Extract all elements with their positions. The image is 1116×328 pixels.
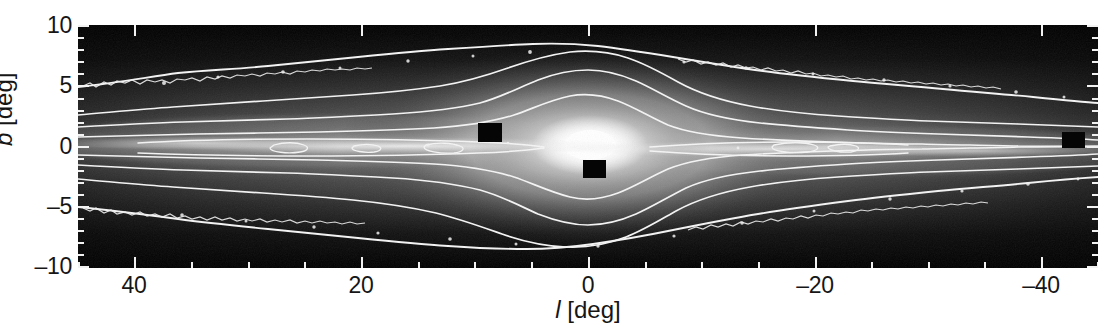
y-axis-unit: [deg] [0,73,17,126]
ytick-major-m10 [78,266,89,268]
ytick-major-5 [78,85,89,87]
xtick-top-major [588,25,590,36]
mask-square-right [1062,132,1085,148]
ytick-right-minor [1092,182,1098,184]
xtick-minor [645,262,647,268]
xtick-minor [531,262,533,268]
xtick-label-20: 20 [349,272,374,299]
xtick-top-major [361,25,363,36]
ytick-right-minor [1092,37,1098,39]
xtick-label-m40: –40 [1022,272,1059,299]
ytick-right-minor [1092,254,1098,256]
ytick-minor [78,98,84,100]
ytick-minor [78,182,84,184]
ytick-minor [78,61,84,63]
xtick-major-m40 [1041,257,1043,268]
ytick-right-minor [1092,194,1098,196]
ytick-minor [78,170,84,172]
xtick-minor [191,262,193,268]
xtick-major-m20 [815,257,817,268]
ytick-right-minor [1092,230,1098,232]
ytick-major-10 [78,25,89,27]
ytick-right-minor [1092,158,1098,160]
galactic-surface-brightness-figure: 10 5 0 –5 –10 40 20 0 –20 –40 b [deg] l … [0,0,1116,328]
xtick-minor [418,262,420,268]
xtick-top-major [1041,25,1043,36]
xtick-minor [928,262,930,268]
ytick-right-minor [1092,98,1098,100]
ytick-right-minor [1092,73,1098,75]
ytick-label-m5: –5 [26,193,72,220]
ytick-right-major [1087,206,1098,208]
ytick-right-minor [1092,61,1098,63]
ytick-right-minor [1092,134,1098,136]
ytick-label-10: 10 [26,12,72,39]
xtick-label-m20: –20 [796,272,833,299]
xtick-top-major [134,25,136,36]
ytick-right-minor [1092,170,1098,172]
xtick-minor [871,262,873,268]
xtick-major-40 [134,257,136,268]
plot-area [78,25,1098,268]
ytick-right-minor [1092,110,1098,112]
xtick-top-major [815,25,817,36]
xtick-label-40: 40 [122,272,147,299]
ytick-label-0: 0 [26,133,72,160]
ytick-right-major [1087,146,1098,148]
ytick-minor [78,122,84,124]
ytick-minor [78,158,84,160]
ytick-minor [78,194,84,196]
ytick-right-major [1087,266,1098,268]
ytick-minor [78,242,84,244]
xtick-major-20 [361,257,363,268]
y-axis-title: b [deg] [0,73,18,146]
xtick-minor [701,262,703,268]
ytick-minor [78,49,84,51]
x-axis-title: l [deg] [555,296,620,324]
ytick-right-minor [1092,218,1098,220]
xtick-label-0: 0 [582,272,595,299]
ytick-minor [78,73,84,75]
ytick-right-minor [1092,49,1098,51]
xtick-minor [758,262,760,268]
xtick-minor [304,262,306,268]
xtick-minor [248,262,250,268]
xtick-minor [984,262,986,268]
ytick-minor [78,254,84,256]
xtick-major-0 [588,257,590,268]
ytick-minor [78,37,84,39]
ytick-minor [78,218,84,220]
x-axis-unit: [deg] [567,296,620,323]
y-axis-symbol: b [0,133,17,146]
ytick-minor [78,230,84,232]
ytick-right-minor [1092,242,1098,244]
ytick-minor [78,134,84,136]
ytick-major-0 [78,146,89,148]
xtick-minor [474,262,476,268]
map-canvas [78,25,1098,268]
ytick-right-major [1087,25,1098,27]
ytick-minor [78,110,84,112]
ytick-label-m10: –10 [16,253,72,280]
ytick-label-5: 5 [26,72,72,99]
mask-square-left [478,123,502,142]
ytick-right-major [1087,85,1098,87]
ytick-major-m5 [78,206,89,208]
ytick-right-minor [1092,122,1098,124]
mask-square-center [583,160,606,178]
